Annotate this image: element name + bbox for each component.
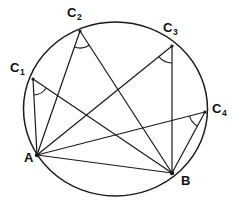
point-label-base: C [10,60,20,75]
chord-A-C3 [37,46,172,155]
point-label-subscript: 2 [77,12,82,22]
point-label-c3: C3 [163,20,178,36]
chord-A-C1 [33,79,37,155]
vertex-dot-c1 [31,77,34,80]
point-label-base: A [24,150,34,165]
angle-arc-C2 [74,45,89,48]
point-label-a: A [24,150,34,165]
circle-outline [24,22,208,196]
vertex-dot-c3 [170,44,173,47]
chord-B-C2 [80,31,172,173]
angle-arc-C3 [159,57,172,63]
point-label-c4: C4 [212,101,227,117]
point-label-base: B [181,173,190,188]
point-label-subscript: 1 [20,67,25,77]
point-label-base: C [67,5,77,20]
angle-arc-C4 [190,116,198,126]
point-label-base: C [212,101,222,116]
point-label-c1: C1 [10,60,25,76]
geometry-canvas: ABC1C2C3C4 [0,0,235,206]
chord-segments-group [33,31,205,173]
chord-A-C4 [37,112,205,155]
angle-arc-C1 [34,88,46,95]
vertex-dot-a [35,153,39,157]
point-label-base: C [163,20,173,35]
point-label-b: B [181,173,190,188]
vertex-dots-group [31,29,206,175]
geometry-figure: ABC1C2C3C4 [0,0,235,206]
point-label-c2: C2 [67,5,82,21]
chord-A-C2 [37,31,80,155]
chord-AB [37,155,172,173]
vertex-dot-c2 [78,29,81,32]
vertex-dot-b [170,171,174,175]
point-label-subscript: 3 [173,27,178,37]
point-label-subscript: 4 [222,108,227,118]
vertex-dot-c4 [203,110,206,113]
